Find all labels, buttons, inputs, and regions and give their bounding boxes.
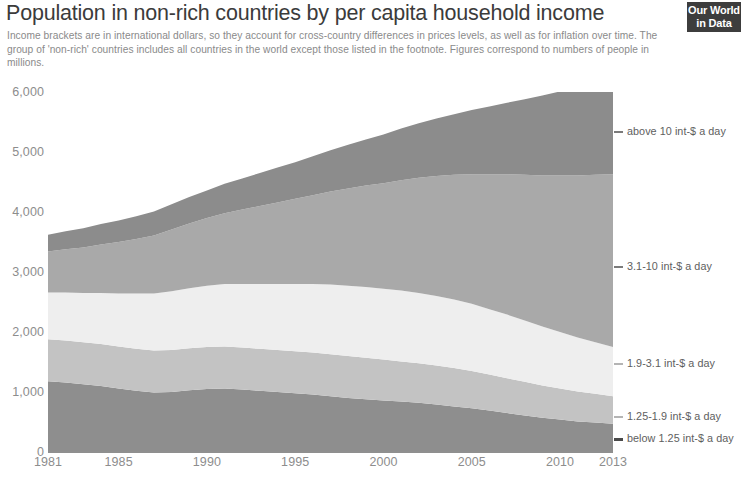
y-tick-label: 6,000 xyxy=(0,85,44,99)
logo-line-1: Our World xyxy=(688,4,740,16)
legend: above 10 int-$ a day3.1-10 int-$ a day1.… xyxy=(614,92,744,462)
x-tick-label: 1981 xyxy=(34,455,62,469)
legend-label: 1.9-3.1 int-$ a day xyxy=(627,357,715,369)
legend-marker-icon xyxy=(614,363,623,365)
area-layers xyxy=(48,92,613,452)
logo-line-2: in Data xyxy=(687,17,741,30)
legend-entry[interactable]: below 1.25 int-$ a day xyxy=(614,432,744,444)
y-tick-label: 2,000 xyxy=(0,325,44,339)
x-tick-label: 2000 xyxy=(369,455,397,469)
legend-marker-icon xyxy=(614,438,623,441)
y-tick-label: 4,000 xyxy=(0,205,44,219)
legend-label: 1.25-1.9 int-$ a day xyxy=(627,410,721,422)
legend-marker-icon xyxy=(614,131,623,133)
x-tick-label: 1995 xyxy=(281,455,309,469)
y-axis: 01,0002,0003,0004,0005,0006,000 xyxy=(0,92,44,452)
legend-entry[interactable]: 3.1-10 int-$ a day xyxy=(614,260,744,272)
plot-area xyxy=(48,92,613,452)
chart-page: Population in non-rich countries by per … xyxy=(0,0,744,480)
legend-marker-icon xyxy=(614,266,623,268)
legend-label: above 10 int-$ a day xyxy=(627,125,726,137)
page-title: Population in non-rich countries by per … xyxy=(6,2,686,26)
legend-entry[interactable]: 1.25-1.9 int-$ a day xyxy=(614,410,744,422)
legend-entry[interactable]: 1.9-3.1 int-$ a day xyxy=(614,357,744,369)
y-tick-label: 1,000 xyxy=(0,385,44,399)
x-tick-label: 2005 xyxy=(458,455,486,469)
chart-subtitle: Income brackets are in international dol… xyxy=(7,29,667,70)
x-axis: 19811985199019952000200520102013 xyxy=(48,455,623,475)
our-world-in-data-logo: Our World in Data xyxy=(687,2,741,32)
stacked-area-svg xyxy=(48,92,613,452)
x-axis-rule xyxy=(48,451,613,453)
x-tick-label: 2010 xyxy=(546,455,574,469)
y-tick-label: 3,000 xyxy=(0,265,44,279)
legend-label: 3.1-10 int-$ a day xyxy=(627,260,712,272)
legend-marker-icon xyxy=(614,416,623,418)
legend-label: below 1.25 int-$ a day xyxy=(627,432,734,444)
y-tick-label: 5,000 xyxy=(0,145,44,159)
legend-entry[interactable]: above 10 int-$ a day xyxy=(614,125,744,137)
x-tick-label: 1985 xyxy=(104,455,132,469)
x-tick-label: 1990 xyxy=(193,455,221,469)
